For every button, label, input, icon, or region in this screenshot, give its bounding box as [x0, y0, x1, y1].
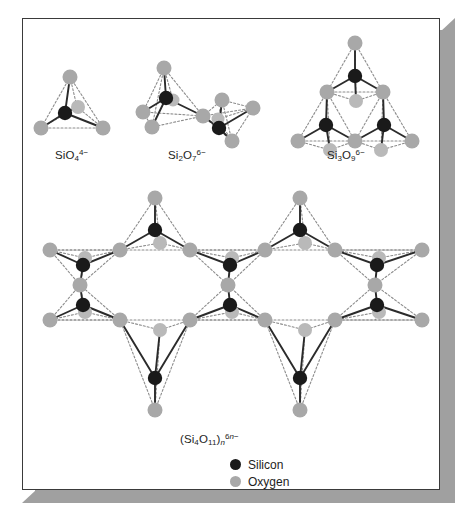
oxygen-atom: [225, 134, 240, 149]
silicon-atom: [76, 298, 90, 312]
oxygen-atom-bridging: [73, 278, 88, 293]
oxygen-atom-bridging: [258, 313, 273, 328]
silicon-atom: [370, 258, 384, 272]
oxygen-atom: [136, 105, 151, 120]
si2o7-bonds: [143, 68, 253, 141]
oxygen-atom-bridging: [221, 278, 236, 293]
silicon-atom: [293, 223, 307, 237]
silicon-atom: [293, 371, 307, 385]
silicon-atom: [377, 118, 391, 132]
legend-label-oxygen: Oxygen: [248, 475, 289, 489]
legend-item-silicon: Silicon: [230, 456, 289, 473]
oxygen-atom: [374, 143, 388, 157]
oxygen-atom: [405, 134, 420, 149]
oxygen-atom: [63, 70, 78, 85]
oxygen-atom: [215, 93, 230, 108]
silicon-atom: [148, 371, 162, 385]
structure-si3o9: [291, 36, 420, 158]
oxygen-atom: [157, 61, 172, 76]
label-si3o9: Si3O96−: [327, 148, 365, 163]
silicon-atom: [223, 258, 237, 272]
label-sio4: SiO44−: [55, 148, 88, 163]
silicon-atom: [212, 121, 226, 135]
oxygen-atom-bridging: [415, 243, 430, 258]
structure-diagrams: .bond{stroke:#2b2b2b;stroke-width:1.9;st…: [0, 0, 472, 526]
oxygen-atom: [148, 191, 163, 206]
oxygen-atom: [96, 121, 111, 136]
oxygen-atom-bridging: [328, 243, 343, 258]
silicon-atom: [159, 91, 173, 105]
oxygen-atom: [293, 403, 308, 418]
si2o7-dotted-edges: [143, 68, 253, 141]
oxygen-swatch-icon: [230, 476, 241, 487]
legend-label-silicon: Silicon: [248, 458, 283, 472]
silicon-atom: [348, 69, 362, 83]
oxygen-atom-bridging: [258, 243, 273, 258]
silicate-structures-figure: .bond{stroke:#2b2b2b;stroke-width:1.9;st…: [0, 0, 472, 526]
silicon-atom: [76, 258, 90, 272]
structure-si4o11-double-chain: [43, 191, 430, 418]
silicon-atom: [223, 298, 237, 312]
oxygen-atom-bridging: [415, 313, 430, 328]
legend-item-oxygen: Oxygen: [230, 473, 289, 490]
oxygen-atom: [293, 191, 308, 206]
oxygen-atom-bridging: [43, 313, 58, 328]
oxygen-atom-bridging: [348, 134, 363, 149]
oxygen-atom: [145, 120, 160, 135]
oxygen-atom: [291, 134, 306, 149]
oxygen-atom: [298, 323, 312, 337]
legend: Silicon Oxygen: [230, 456, 289, 490]
oxygen-atom-bridging: [183, 313, 198, 328]
oxygen-atom-bridging: [196, 109, 211, 124]
oxygen-atom-bridging: [376, 85, 391, 100]
silicon-atom: [148, 223, 162, 237]
oxygen-atom-bridging: [43, 243, 58, 258]
oxygen-atom: [348, 36, 363, 51]
structure-si2o7: [136, 61, 261, 149]
oxygen-atom-bridging: [328, 313, 343, 328]
oxygen-atom-bridging: [368, 278, 383, 293]
silicon-swatch-icon: [230, 459, 241, 470]
oxygen-atom: [148, 403, 163, 418]
silicon-atom: [58, 106, 72, 120]
oxygen-atom: [153, 236, 167, 250]
sio4-dotted-edges: [41, 77, 103, 128]
oxygen-atom: [34, 121, 49, 136]
silicon-atom: [370, 298, 384, 312]
oxygen-atom-bridging: [113, 313, 128, 328]
oxygen-atom: [246, 101, 261, 116]
label-si2o7: Si2O76−: [168, 148, 206, 163]
silicon-atom: [319, 118, 333, 132]
oxygen-atom: [71, 100, 85, 114]
structure-sio4: [34, 70, 111, 136]
oxygen-atom-bridging: [320, 85, 335, 100]
label-si4o11-chain: (Si4O11)n6n−: [180, 432, 239, 447]
oxygen-atom: [298, 236, 312, 250]
oxygen-atom: [349, 94, 363, 108]
oxygen-atom-bridging: [183, 243, 198, 258]
oxygen-atom-bridging: [113, 243, 128, 258]
oxygen-atom: [153, 323, 167, 337]
